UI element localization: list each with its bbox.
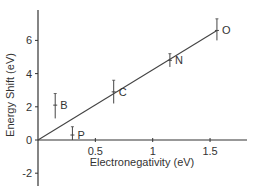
point-label: P bbox=[77, 129, 84, 141]
y-axis-label: Energy Shift (eV) bbox=[4, 53, 16, 137]
y-tick-label: 0 bbox=[26, 134, 32, 146]
y-tick-label: 2 bbox=[26, 101, 32, 113]
x-tick-label: 1.5 bbox=[202, 145, 217, 157]
y-tick-label: 6 bbox=[26, 34, 32, 46]
point-label: O bbox=[222, 24, 231, 36]
chart-canvas: -202460.511.5Electronegativity (eV)Energ… bbox=[0, 0, 254, 194]
point-label: C bbox=[119, 86, 127, 98]
y-tick-label: -2 bbox=[22, 167, 32, 179]
x-axis-label: Electronegativity (eV) bbox=[90, 156, 195, 168]
y-tick-label: 4 bbox=[26, 68, 32, 80]
point-label: N bbox=[175, 54, 183, 66]
fit-line bbox=[38, 30, 217, 140]
point-label: B bbox=[60, 99, 67, 111]
